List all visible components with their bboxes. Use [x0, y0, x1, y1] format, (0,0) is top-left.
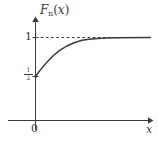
y-axis-label-argument: (x) [53, 3, 69, 17]
y-axis-label: Fn(x) [40, 4, 69, 17]
fraction-denominator: 2 [24, 75, 33, 81]
fraction-numerator: 1 [24, 67, 33, 73]
curve-start-point [34, 75, 37, 78]
y-tick-label-half: 1 2 [24, 67, 33, 82]
x-axis-label: x [146, 124, 152, 135]
y-axis-arrowhead [32, 17, 39, 23]
y-tick-label-one: 1 [25, 31, 32, 42]
origin-label: 0 [31, 123, 38, 134]
cdf-curve [36, 38, 151, 77]
figure-canvas: Fn(x) x 1 0 1 2 [0, 0, 158, 142]
